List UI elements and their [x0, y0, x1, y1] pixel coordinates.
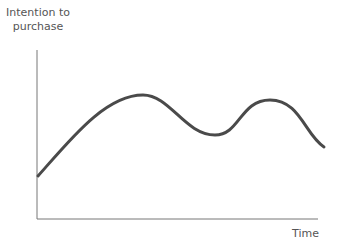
x-axis-label: Time: [292, 227, 319, 240]
intention-curve: [38, 95, 324, 176]
chart-canvas: [0, 0, 342, 249]
